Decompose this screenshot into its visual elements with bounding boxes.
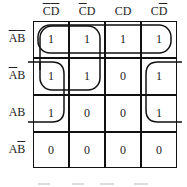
wrap-group-left-loop <box>28 62 64 122</box>
left-quad-group-loop <box>40 26 100 90</box>
wrap-group-right-loop <box>146 62 182 122</box>
faint-mark <box>38 183 50 185</box>
faint-mark <box>100 183 114 185</box>
faint-mark <box>134 183 148 185</box>
top-row-group-loop <box>38 25 171 53</box>
faint-mark <box>72 183 84 185</box>
group-loops <box>0 0 187 187</box>
